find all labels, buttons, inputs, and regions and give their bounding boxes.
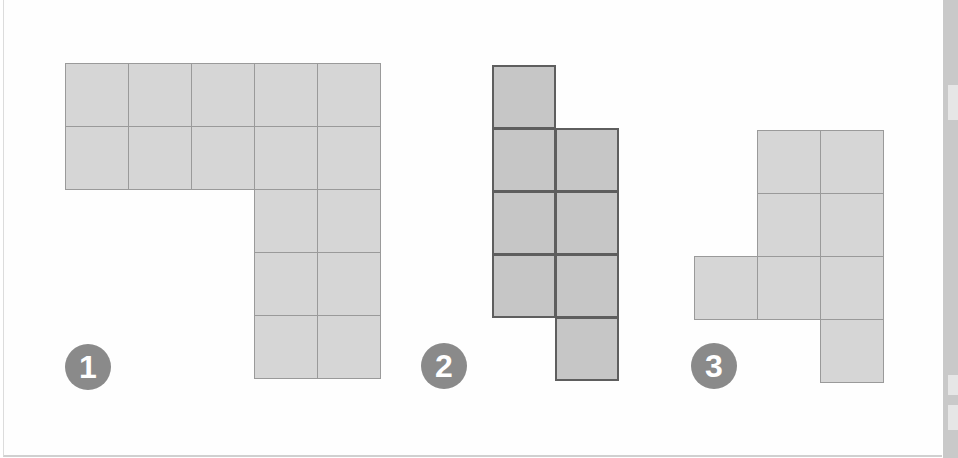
grid-square [555,254,619,318]
grid-square [317,315,381,379]
grid-square [757,130,821,194]
grid-square [757,193,821,257]
grid-square [254,189,318,253]
grid-square [317,63,381,127]
grid-square [555,191,619,255]
shape-number-badge-2: 2 [421,343,467,389]
page-edge-tab [948,375,958,395]
grid-square [492,191,556,255]
grid-square [128,126,192,190]
grid-square [820,256,884,320]
shape-number-badge-3: 3 [691,343,737,389]
grid-square [128,63,192,127]
grid-square [65,126,129,190]
grid-square [492,65,556,129]
grid-square [191,126,255,190]
grid-square [254,126,318,190]
grid-square [254,252,318,316]
grid-square [757,256,821,320]
grid-square [555,128,619,192]
grid-square [492,254,556,318]
grid-square [317,252,381,316]
grid-square [820,130,884,194]
grid-square [555,317,619,381]
grid-square [254,315,318,379]
page-edge-tab [948,405,958,430]
grid-square [694,256,758,320]
grid-square [191,63,255,127]
grid-square [65,63,129,127]
grid-square [317,189,381,253]
grid-square [254,63,318,127]
grid-square [317,126,381,190]
grid-square [492,128,556,192]
page-edge-tab [948,85,958,120]
shape-number-badge-1: 1 [65,344,111,390]
grid-square [820,193,884,257]
grid-square [820,319,884,383]
